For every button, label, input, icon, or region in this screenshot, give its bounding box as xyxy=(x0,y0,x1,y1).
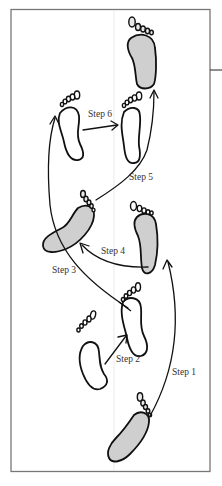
step-6-label: Step 6 xyxy=(88,110,112,120)
right-foot-middle xyxy=(131,202,158,274)
right-foot-lower xyxy=(119,283,147,356)
footstep-diagram: Step 6 Step 5 Step 4 Step 3 Step 2 Step … xyxy=(0,0,222,486)
step-3-label: Step 3 xyxy=(52,266,76,276)
start-right-foot xyxy=(108,393,152,462)
step-1-arrow xyxy=(150,260,175,416)
diagram-canvas xyxy=(0,0,222,486)
left-foot-upper xyxy=(59,91,84,160)
right-foot-upper xyxy=(122,92,142,163)
step-5-label: Step 5 xyxy=(129,173,153,183)
step-5-arrow xyxy=(96,90,158,200)
left-foot-lower xyxy=(77,310,107,389)
step-4-label: Step 4 xyxy=(101,247,125,257)
end-foot-top xyxy=(128,17,156,89)
left-foot-middle xyxy=(43,191,95,253)
step-2-label: Step 2 xyxy=(116,355,140,365)
step-6-arrow xyxy=(83,121,118,130)
diagram-frame xyxy=(11,10,210,472)
step-1-label: Step 1 xyxy=(172,368,196,378)
